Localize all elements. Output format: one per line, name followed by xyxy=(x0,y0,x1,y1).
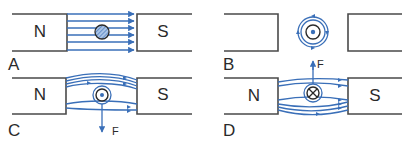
panel-label-a: A xyxy=(8,55,20,74)
force-label-c: F xyxy=(112,125,119,137)
conductor-hatched-icon xyxy=(95,25,109,39)
right-magnet-b xyxy=(348,14,402,51)
panel-label-d: D xyxy=(223,121,235,140)
pole-label-s-c: S xyxy=(157,85,168,104)
pole-label-n-c: N xyxy=(34,85,46,104)
panel-d: N S D xyxy=(223,62,402,140)
panel-label-b: B xyxy=(223,55,234,74)
magnetic-force-diagram: N S A F B N xyxy=(0,0,410,142)
panel-a: N S A xyxy=(8,14,192,74)
pole-label-n-a: N xyxy=(34,22,46,41)
pole-label-s-d: S xyxy=(369,86,380,105)
current-dot-icon xyxy=(311,30,315,34)
panel-c: N S F C xyxy=(8,74,192,140)
pole-label-s-a: S xyxy=(157,22,168,41)
current-dot-icon xyxy=(100,93,104,97)
force-label-b: F xyxy=(317,58,324,70)
left-magnet-b xyxy=(224,14,278,51)
pole-label-n-d: N xyxy=(248,86,260,105)
panel-label-c: C xyxy=(8,121,20,140)
